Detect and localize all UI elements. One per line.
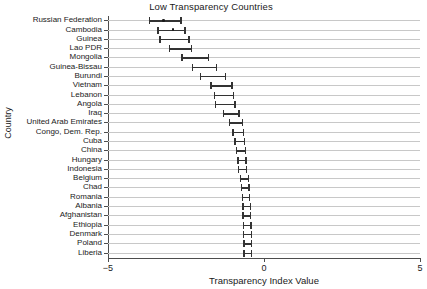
grid-line — [108, 76, 420, 77]
y-axis-tick-labels: Russian FederationCambodiaGuineaLao PDRM… — [0, 0, 102, 289]
grid-line — [108, 39, 420, 40]
y-tick-label: Liberia — [2, 249, 102, 257]
y-tick-label: Ethiopia — [2, 221, 102, 229]
grid-line — [108, 197, 420, 198]
data-point-marker — [172, 28, 175, 31]
grid-line — [108, 178, 420, 179]
error-bar-cap-high — [249, 194, 250, 201]
grid-line — [108, 150, 420, 151]
grid-line — [108, 169, 420, 170]
x-tick-mark — [264, 258, 265, 262]
error-bar-cap-low — [243, 250, 244, 257]
error-bar-cap-high — [245, 157, 246, 164]
y-tick-label: Angola — [2, 100, 102, 108]
error-bar — [232, 132, 243, 133]
y-tick-label: Chad — [2, 183, 102, 191]
y-tick-label: China — [2, 146, 102, 154]
error-bar-cap-low — [157, 27, 158, 34]
error-bar — [159, 39, 188, 40]
error-bar-cap-low — [240, 175, 241, 182]
error-bar-cap-high — [180, 17, 181, 24]
error-bar-cap-high — [242, 119, 243, 126]
grid-line — [108, 57, 420, 58]
error-bar-cap-low — [149, 17, 150, 24]
error-bar-cap-high — [216, 64, 217, 71]
grid-line — [108, 253, 420, 254]
grid-line — [108, 160, 420, 161]
error-bar-cap-low — [200, 73, 201, 80]
error-bar-cap-high — [251, 231, 252, 238]
error-bar — [215, 104, 235, 105]
grid-line — [108, 122, 420, 123]
error-bar — [157, 30, 184, 31]
error-bar-cap-high — [188, 36, 189, 43]
error-bar-cap-low — [242, 194, 243, 201]
error-bar-cap-low — [243, 222, 244, 229]
error-bar — [223, 113, 239, 114]
y-tick-label: Albania — [2, 202, 102, 210]
error-bar-cap-high — [238, 110, 239, 117]
error-bar-cap-low — [223, 110, 224, 117]
error-bar-cap-low — [232, 129, 233, 136]
error-bar-cap-high — [184, 27, 185, 34]
error-bar-cap-low — [242, 212, 243, 219]
error-bar — [210, 85, 231, 86]
grid-line — [108, 104, 420, 105]
x-tick-mark — [108, 258, 109, 262]
error-bar-cap-high — [208, 54, 209, 61]
error-bar — [234, 141, 243, 142]
error-bar-cap-low — [238, 166, 239, 173]
y-tick-label: Denmark — [2, 230, 102, 238]
error-bar-cap-high — [191, 45, 192, 52]
error-bar-cap-low — [242, 203, 243, 210]
error-bar-cap-high — [250, 222, 251, 229]
y-tick-label: Burundi — [2, 72, 102, 80]
error-bar-cap-low — [192, 64, 193, 71]
error-bar — [169, 48, 191, 49]
error-bar-cap-high — [248, 175, 249, 182]
grid-line — [108, 95, 420, 96]
grid-line — [108, 206, 420, 207]
grid-line — [108, 187, 420, 188]
error-bar-cap-high — [250, 212, 251, 219]
grid-line — [108, 234, 420, 235]
error-bar-cap-low — [214, 92, 215, 99]
y-tick-label: Cambodia — [2, 26, 102, 34]
error-bar-cap-low — [234, 138, 235, 145]
error-bar-cap-low — [215, 101, 216, 108]
y-tick-label: Poland — [2, 239, 102, 247]
y-tick-label: Hungary — [2, 156, 102, 164]
grid-line — [108, 141, 420, 142]
error-bar — [214, 95, 233, 96]
grid-line — [108, 113, 420, 114]
x-axis-title: Transparency Index Value — [108, 275, 420, 286]
y-tick-label: Lebanon — [2, 91, 102, 99]
y-tick-label: Romania — [2, 193, 102, 201]
y-tick-label: Vietnam — [2, 81, 102, 89]
error-bar-cap-low — [236, 147, 237, 154]
error-bar-cap-high — [251, 250, 252, 257]
error-bar-cap-low — [181, 54, 182, 61]
data-point-marker — [162, 19, 165, 22]
grid-line — [108, 132, 420, 133]
error-bar-cap-low — [169, 45, 170, 52]
error-bar-cap-low — [210, 82, 211, 89]
error-bar-cap-low — [237, 157, 238, 164]
error-bar — [181, 57, 208, 58]
error-bar-cap-low — [229, 119, 230, 126]
error-bar-cap-high — [246, 166, 247, 173]
error-bar-cap-high — [225, 73, 226, 80]
y-tick-label: Guinea-Bissau — [2, 63, 102, 71]
y-tick-label: Congo, Dem. Rep. — [2, 128, 102, 136]
error-bar-cap-high — [243, 129, 244, 136]
y-tick-label: United Arab Emirates — [2, 118, 102, 126]
grid-line — [108, 215, 420, 216]
error-bar-cap-high — [231, 82, 232, 89]
error-bar — [200, 76, 225, 77]
y-tick-label: Iraq — [2, 109, 102, 117]
grid-line — [108, 67, 420, 68]
error-bar — [229, 122, 241, 123]
plot-area — [108, 16, 420, 258]
error-bar-cap-high — [245, 147, 246, 154]
